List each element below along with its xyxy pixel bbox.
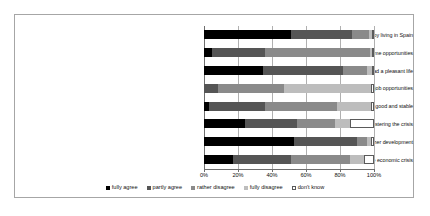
bar-segment[interactable] — [212, 48, 265, 57]
legend-item[interactable]: fully disagree — [244, 185, 283, 191]
plot-area — [204, 26, 374, 169]
bar-segment[interactable] — [297, 119, 334, 128]
bar-row — [204, 98, 374, 116]
legend-swatch-icon — [244, 186, 248, 190]
bar-row — [204, 115, 374, 133]
legend-item[interactable]: rather disagree — [191, 185, 235, 191]
value-axis-rule — [204, 169, 374, 170]
legend-swatch-icon — [191, 186, 195, 190]
bar-segment[interactable] — [204, 48, 212, 57]
stacked-bar[interactable] — [204, 48, 374, 57]
bar-segment[interactable] — [350, 155, 364, 164]
bar-segment[interactable] — [233, 155, 291, 164]
bar-segment[interactable] — [352, 30, 369, 39]
tick-label: 80% — [334, 173, 345, 179]
stacked-bar[interactable] — [204, 137, 374, 146]
legend-item[interactable]: don't know — [292, 185, 325, 191]
bar-segment[interactable] — [204, 84, 218, 93]
bar-segment[interactable] — [204, 137, 294, 146]
legend-label: partly agree — [153, 185, 183, 191]
bar-segment[interactable] — [371, 137, 374, 146]
legend-swatch-icon — [292, 186, 296, 190]
bar-segment[interactable] — [371, 102, 374, 111]
legend-label: fully disagree — [250, 185, 283, 191]
legend-label: fully agree — [112, 185, 138, 191]
tick-label: 20% — [232, 173, 243, 179]
legend: fully agreepartly agreerather disagreefu… — [15, 185, 415, 191]
stacked-bar[interactable] — [204, 30, 374, 39]
bar-segment[interactable] — [357, 137, 367, 146]
tick-label: 40% — [266, 173, 277, 179]
tick-label: 100% — [367, 173, 381, 179]
bar-segment[interactable] — [265, 48, 370, 57]
bar-segment[interactable] — [364, 155, 374, 164]
legend-label: don't know — [298, 185, 325, 191]
bar-segment[interactable] — [284, 84, 371, 93]
bar-segment[interactable] — [371, 84, 374, 93]
tick-label: 0% — [200, 173, 208, 179]
legend-item[interactable]: fully agree — [106, 185, 138, 191]
bar-row — [204, 80, 374, 98]
bar-segment[interactable] — [204, 66, 263, 75]
tick-label: 60% — [300, 173, 311, 179]
legend-item[interactable]: partly agree — [147, 185, 183, 191]
chart-frame: I enjoy living in Spain In Spain, there … — [14, 14, 414, 198]
value-axis: 0%20%40%60%80%100% — [204, 169, 374, 181]
bar-segment[interactable] — [263, 66, 343, 75]
gridline — [374, 26, 375, 169]
bar-segment[interactable] — [337, 102, 371, 111]
stacked-bar[interactable] — [204, 84, 374, 93]
bar-row — [204, 151, 374, 169]
stacked-bar[interactable] — [204, 66, 374, 75]
bar-row — [204, 62, 374, 80]
bar-segment[interactable] — [350, 119, 374, 128]
legend-swatch-icon — [147, 186, 151, 190]
legend-swatch-icon — [106, 186, 110, 190]
bar-segment[interactable] — [204, 30, 291, 39]
bar-segment[interactable] — [291, 155, 351, 164]
bar-segment[interactable] — [335, 119, 350, 128]
stacked-bar[interactable] — [204, 155, 374, 164]
bar-row — [204, 133, 374, 151]
legend-label: rather disagree — [197, 185, 235, 191]
bar-segment[interactable] — [209, 102, 265, 111]
stacked-bar[interactable] — [204, 102, 374, 111]
bar-segment[interactable] — [291, 30, 352, 39]
bar-segment[interactable] — [372, 66, 374, 75]
bar-row — [204, 44, 374, 62]
bar-segment[interactable] — [245, 119, 298, 128]
bar-segment[interactable] — [204, 119, 245, 128]
bar-segment[interactable] — [294, 137, 357, 146]
bar-segment[interactable] — [343, 66, 367, 75]
stacked-bar[interactable] — [204, 119, 374, 128]
bar-row — [204, 26, 374, 44]
bar-segment[interactable] — [265, 102, 336, 111]
bar-segment[interactable] — [372, 48, 374, 57]
bar-segment[interactable] — [218, 84, 284, 93]
bar-segment[interactable] — [204, 155, 233, 164]
bar-segment[interactable] — [372, 30, 374, 39]
